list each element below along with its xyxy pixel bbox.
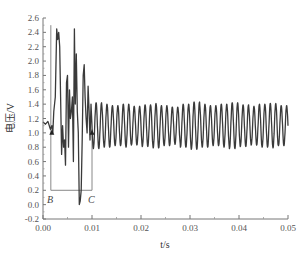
y-tick-label: 1.0	[28, 128, 40, 138]
y-tick-label: 1.2	[28, 114, 39, 124]
x-tick-label: 0.03	[182, 223, 198, 233]
triangle-marker-icon	[49, 130, 54, 135]
x-tick-label: 0.00	[35, 223, 51, 233]
y-axis-label: 电压/V	[4, 102, 16, 133]
y-tick-label: 1.4	[28, 99, 40, 109]
x-tick-label: 0.04	[231, 223, 247, 233]
y-tick-label: 0.6	[28, 157, 40, 167]
x-tick-label: 0.02	[133, 223, 149, 233]
y-tick-label: 1.8	[28, 70, 40, 80]
x-axis-label: t/s	[160, 239, 170, 250]
plot-area	[43, 25, 288, 204]
y-tick-label: 2.6	[28, 13, 40, 23]
y-tick-label: 0.0	[28, 200, 40, 210]
y-tick-label: 0.4	[28, 171, 40, 181]
voltage-series-line	[43, 29, 288, 205]
y-tick-label: 2.0	[28, 56, 40, 66]
label-c: C	[88, 194, 95, 205]
y-tick-label: 0.2	[28, 185, 39, 195]
x-tick-label: 0.01	[84, 223, 100, 233]
x-tick-label: 0.05	[280, 223, 296, 233]
y-tick-label: 1.6	[28, 85, 40, 95]
y-tick-label: 2.4	[28, 27, 40, 37]
label-b: B	[47, 194, 53, 205]
y-tick-label: 0.8	[28, 142, 40, 152]
voltage-chart: -0.20.00.20.40.60.81.01.21.41.61.82.02.2…	[0, 0, 307, 259]
y-tick-label: 2.2	[28, 42, 39, 52]
